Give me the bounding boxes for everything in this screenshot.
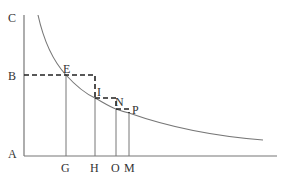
hyperbola-curve (38, 15, 263, 140)
label-P: P (132, 103, 139, 117)
diagram-canvas: C B A E I N P G H O M (0, 0, 291, 175)
label-N: N (115, 95, 124, 109)
label-G: G (61, 161, 70, 175)
label-O: O (111, 161, 120, 175)
label-I: I (97, 85, 101, 99)
dashed-step-B-E-I (24, 75, 95, 98)
label-C: C (8, 11, 16, 25)
label-E: E (63, 62, 70, 76)
label-B: B (8, 69, 16, 83)
label-H: H (90, 161, 99, 175)
label-M: M (124, 161, 135, 175)
label-A: A (8, 147, 17, 161)
